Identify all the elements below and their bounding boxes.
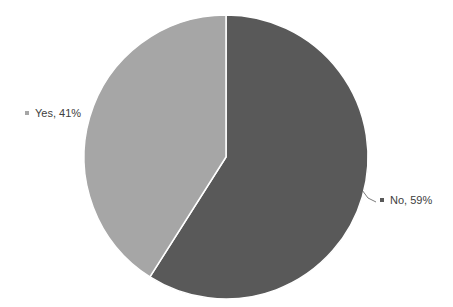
data-label-no-text: No, 59% xyxy=(390,194,432,206)
pie-slices xyxy=(84,15,368,299)
data-label-yes-text: Yes, 41% xyxy=(35,107,81,119)
legend-swatch-no xyxy=(380,198,384,202)
data-label-yes: Yes, 41% xyxy=(25,107,81,119)
pie-chart xyxy=(0,0,453,307)
legend-swatch-yes xyxy=(25,111,29,115)
data-label-no: No, 59% xyxy=(380,194,432,206)
